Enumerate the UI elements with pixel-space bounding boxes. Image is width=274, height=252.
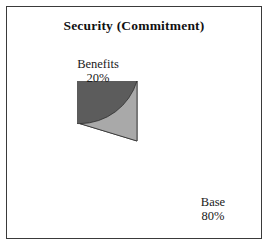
chart-title: Security (Commitment) — [7, 18, 261, 34]
pie-label-base-value: 80% — [177, 209, 249, 223]
pie-label-benefits-value: 20% — [61, 71, 135, 85]
pie-chart-screenshot: Security (Commitment) Benefits 20% Base … — [0, 0, 274, 252]
pie-label-benefits: Benefits 20% — [61, 57, 135, 85]
pie-chart-graphic — [77, 81, 197, 201]
pie-label-base: Base 80% — [177, 195, 249, 223]
pie-label-base-name: Base — [177, 195, 249, 209]
pie-svg — [77, 81, 197, 201]
pie-label-benefits-name: Benefits — [61, 57, 135, 71]
chart-frame: Security (Commitment) Benefits 20% Base … — [6, 6, 262, 239]
